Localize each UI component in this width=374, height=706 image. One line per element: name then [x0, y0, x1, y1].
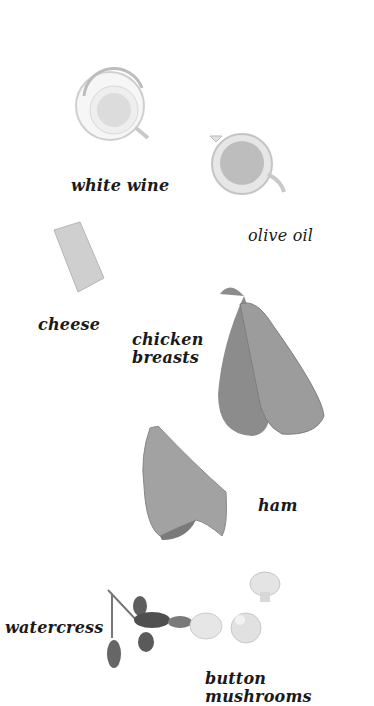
cheese-label: cheese: [38, 316, 100, 334]
white-wine-label: white wine: [71, 177, 169, 195]
watercress-image: [100, 584, 192, 670]
chicken-label-line1: chicken: [132, 330, 204, 349]
chicken-breasts-label: chicken breasts: [132, 331, 204, 367]
ham-image: [136, 426, 232, 544]
white-wine-image: [74, 66, 154, 144]
olive-oil-image: [208, 130, 288, 198]
button-mushrooms-image: [188, 570, 288, 650]
chicken-breasts-image: [212, 284, 330, 442]
chicken-label-line2: breasts: [132, 348, 199, 367]
olive-oil-label: olive oil: [248, 227, 313, 245]
ham-label: ham: [258, 497, 298, 515]
watercress-label: watercress: [5, 619, 104, 637]
cheese-image: [52, 220, 108, 296]
button-mushrooms-label: button mushrooms: [205, 670, 374, 706]
